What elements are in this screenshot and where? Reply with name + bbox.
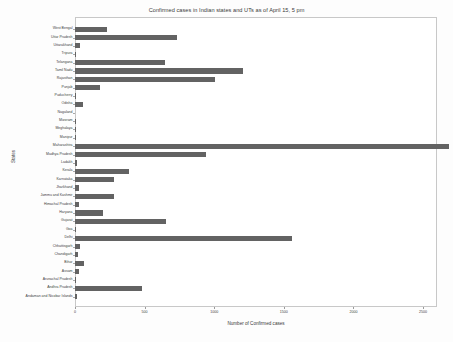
bar <box>75 85 100 90</box>
chart-figure: Confirmed cases in Indian states and UTs… <box>0 0 453 342</box>
bar-row: Jharkhand <box>75 184 437 192</box>
y-axis-tick-label: Odisha <box>61 103 72 107</box>
plot-area: West BengalUttar PradeshUttarakhandTripu… <box>75 25 437 301</box>
bar-row: Himachal Pradesh <box>75 201 437 209</box>
y-axis-tick-label: Karnataka <box>57 178 73 182</box>
y-axis-tick <box>73 113 75 114</box>
bar <box>75 127 76 132</box>
bar <box>75 294 77 299</box>
bar-row: Haryana <box>75 209 437 217</box>
bar-row: Ladakh <box>75 159 437 167</box>
y-axis-tick-label: Chhattisgarh <box>53 245 73 249</box>
bar <box>75 135 76 140</box>
bar-row: Maharashtra <box>75 142 437 150</box>
bar-row: Uttarakhand <box>75 42 437 50</box>
bar-row: Punjab <box>75 84 437 92</box>
chart-title: Confirmed cases in Indian states and UTs… <box>0 7 453 13</box>
y-axis-tick-label: Andhra Pradesh <box>47 287 72 291</box>
y-axis-tick-label: Madhya Pradesh <box>46 153 72 157</box>
y-axis-tick-label: Telangana <box>56 61 72 65</box>
bar <box>75 68 243 73</box>
bar <box>75 210 103 215</box>
bar <box>75 286 142 291</box>
bar-row: Nagaland <box>75 109 437 117</box>
bar-row: Andaman and Nicobar Islands <box>75 293 437 301</box>
bar-row: Rajasthan <box>75 75 437 83</box>
bar <box>75 194 114 199</box>
y-axis-tick-label: Uttarakhand <box>53 44 72 48</box>
bar <box>75 261 84 266</box>
x-axis-tick-label: 0 <box>74 310 76 314</box>
bar <box>75 43 80 48</box>
bar <box>75 52 76 57</box>
bar <box>75 277 76 282</box>
bar <box>75 177 114 182</box>
bar <box>75 236 292 241</box>
bar <box>75 227 76 232</box>
y-axis-tick-label: Tamil Nadu <box>55 69 73 73</box>
bar <box>75 152 206 157</box>
bar <box>75 77 215 82</box>
y-axis-tick-label: Mizoram <box>59 119 72 123</box>
bar <box>75 93 76 98</box>
y-axis-tick-label: West Bengal <box>53 27 73 31</box>
bar-row: Delhi <box>75 234 437 242</box>
bar <box>75 244 80 249</box>
y-axis-tick-label: Maharashtra <box>53 144 73 148</box>
x-axis-tick-label: 500 <box>142 310 148 314</box>
y-axis-tick-label: Jammu and Kashmir <box>40 195 72 199</box>
bar <box>75 144 449 149</box>
y-axis-tick-label: Assam <box>62 270 73 274</box>
bar <box>75 102 83 107</box>
bar-row: Puducherry <box>75 92 437 100</box>
bar-row: Tamil Nadu <box>75 67 437 75</box>
bar-row: Madhya Pradesh <box>75 150 437 158</box>
x-axis-tick-label: 1500 <box>280 310 288 314</box>
bar <box>75 202 79 207</box>
y-axis-tick-label: Nagaland <box>58 111 73 115</box>
y-axis-tick-label: Goa <box>66 228 73 232</box>
bar-row: Meghalaya <box>75 125 437 133</box>
bar-row: Arunachal Pradesh <box>75 276 437 284</box>
y-axis-tick-label: Tripura <box>62 53 73 57</box>
x-axis-title: Number of Confirmed cases <box>75 321 437 326</box>
bar <box>75 185 79 190</box>
bar-row: Telangana <box>75 58 437 66</box>
y-axis-tick-label: Ladakh <box>61 161 72 165</box>
y-axis-tick-label: Punjab <box>62 86 73 90</box>
y-axis-tick-label: Bihar <box>64 261 72 265</box>
x-axis-tick-label: 1000 <box>210 310 218 314</box>
x-axis-tick-label: 2500 <box>419 310 427 314</box>
bar-row: Kerala <box>75 167 437 175</box>
bar-row: Goa <box>75 226 437 234</box>
y-axis-tick-label: Haryana <box>59 211 72 215</box>
bar-row: Bihar <box>75 259 437 267</box>
bar-row: Uttar Pradesh <box>75 33 437 41</box>
y-axis-tick-label: Manipur <box>60 136 73 140</box>
bar <box>75 60 165 65</box>
y-axis-tick-label: Kerala <box>62 170 72 174</box>
bar-row: West Bengal <box>75 25 437 33</box>
bar-row: Manipur <box>75 134 437 142</box>
bar-row: Mizoram <box>75 117 437 125</box>
bar-row: Chandigarh <box>75 251 437 259</box>
bar-row: Jammu and Kashmir <box>75 192 437 200</box>
y-axis-tick-label: Rajasthan <box>57 78 73 82</box>
bar <box>75 119 76 124</box>
y-axis-tick-label: Puducherry <box>55 94 73 98</box>
bar <box>75 27 107 32</box>
y-axis-tick-label: Himachal Pradesh <box>44 203 73 207</box>
bar-row: Odisha <box>75 100 437 108</box>
bar <box>75 252 78 257</box>
y-axis-tick-label: Chandigarh <box>54 253 72 257</box>
x-axis-tick-label: 2000 <box>349 310 357 314</box>
y-axis-tick-label: Uttar Pradesh <box>51 36 73 40</box>
bar-row: Tripura <box>75 50 437 58</box>
y-axis-tick-label: Arunachal Pradesh <box>43 278 73 282</box>
bar-row: Andhra Pradesh <box>75 284 437 292</box>
y-axis-tick-label: Meghalaya <box>55 128 72 132</box>
bar <box>75 269 79 274</box>
y-axis-title: States <box>11 150 16 163</box>
y-axis-tick-label: Jharkhand <box>56 186 72 190</box>
bar <box>75 160 77 165</box>
